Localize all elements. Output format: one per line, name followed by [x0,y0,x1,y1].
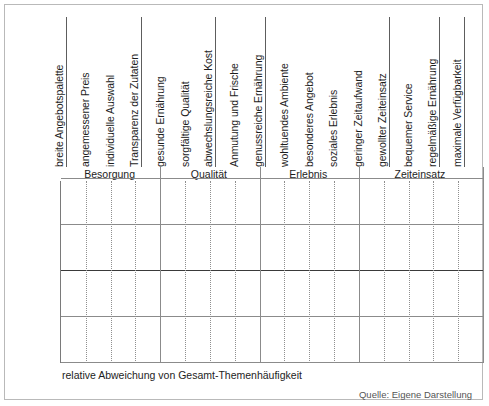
category-label: soziales Erlebnis [326,17,340,167]
category-separator [384,181,385,363]
category-label: regelmäßige Ernährung [425,17,440,167]
group-separator [260,167,261,363]
category-label: gewollter Zeiteinsatz [375,17,390,167]
group-separator [160,167,161,363]
category-label: abwechslungsreiche Kost [201,17,216,167]
plot-right-border [483,167,484,363]
category-label: maximale Verfügbarkeit [450,17,465,167]
category-separator [409,181,410,363]
category-label: Anmutung und Frische [227,17,241,167]
category-label: sorgfältige Qualität [178,17,192,167]
category-separator [235,181,236,363]
category-separator [334,181,335,363]
group-separator [359,167,360,363]
category-separator [111,181,112,363]
plot-area: 100 %50 %0 %-50 %-100 % [60,181,482,363]
category-label: besonderes Angebot [302,17,316,167]
category-label: Transparenz der Zutaten [127,17,142,167]
x-axis-caption: relative Abweichung von Gesamt-Themenhäu… [62,369,302,381]
category-separator [433,181,434,363]
category-label: wohltuendes Ambiente [277,17,291,167]
figure-frame: breite Angebotspaletteangemessener Preis… [4,4,483,400]
gridline--100 [61,362,483,363]
category-label-band: breite Angebotspaletteangemessener Preis… [60,15,482,167]
category-label: angemessener Preis [78,17,92,167]
gridline-50 [61,224,483,225]
category-label: genussreiche Ernährung [251,17,266,167]
category-label: geringer Zeitaufwand [351,17,365,167]
category-separator [86,181,87,363]
gridline-0 [61,270,483,272]
gridline--50 [61,316,483,317]
category-label: breite Angebotspalette [52,17,67,167]
category-separator [284,181,285,363]
category-separator [135,181,136,363]
category-separator [185,181,186,363]
category-separator [458,181,459,363]
category-separator [210,181,211,363]
category-separator [309,181,310,363]
source-note: Quelle: Eigene Darstellung [359,389,472,400]
gridline-100 [61,178,483,179]
category-label: individuelle Auswahl [103,17,117,167]
category-label: gesunde Ernährung [153,17,167,167]
category-label: bequemer Service [401,17,415,167]
